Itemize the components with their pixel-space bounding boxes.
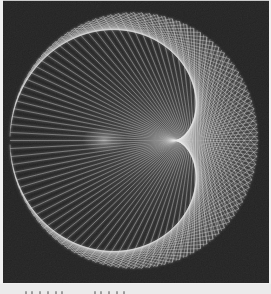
scanned-figure-page <box>0 0 271 294</box>
cropped-caption-strip <box>0 284 271 294</box>
cardioid-figure <box>3 0 269 283</box>
scan-grain-overlay <box>3 1 269 283</box>
string-art-cardioid-plot <box>3 1 269 283</box>
